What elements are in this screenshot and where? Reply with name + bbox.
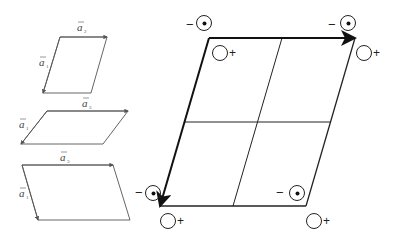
cell-1-top-label: a — [77, 21, 83, 33]
open-circle-icon — [357, 46, 372, 61]
cell-1-outline — [43, 37, 107, 93]
unit-cell-1: a 2 a 1 — [39, 21, 107, 93]
cell-2-vector-a1 — [21, 111, 47, 144]
open-circle-icon — [213, 46, 228, 61]
cell-3-left-label: a — [19, 187, 25, 199]
minus-sign: − — [276, 185, 284, 200]
dot-icon — [347, 22, 351, 26]
cell-2-outline — [21, 111, 128, 144]
minus-sign: − — [328, 17, 336, 32]
unit-cell-2: a 3 a 1 — [19, 97, 128, 144]
plus-sign: + — [323, 214, 330, 228]
cell-1-left-sub: 1 — [46, 64, 49, 69]
dot-icon — [296, 192, 300, 196]
plus-sign: + — [373, 46, 380, 60]
dot-icon — [203, 22, 207, 26]
unit-cell-3: a 3 a 1 — [19, 151, 130, 220]
open-circle-icon — [161, 214, 176, 229]
cell-3-top-sub: 3 — [67, 159, 70, 164]
open-circle-icon — [307, 214, 322, 229]
cell-3-outline — [22, 165, 130, 220]
lattice-diagram: a 2 a 1 a 3 a 1 a 3 a 1 — [0, 0, 401, 243]
cell-1-top-sub: 2 — [84, 29, 87, 34]
corner-marker-bottom-left: − + — [135, 185, 184, 229]
cell-3-top-label: a — [60, 151, 66, 163]
cell-2-left-label: a — [19, 118, 25, 130]
supercell-2x2 — [160, 38, 355, 206]
dot-icon — [152, 192, 156, 196]
plus-sign: + — [177, 214, 184, 228]
cell-2-left-sub: 1 — [26, 126, 29, 131]
minus-sign: − — [186, 17, 194, 32]
cell-2-top-sub: 3 — [89, 105, 92, 110]
cell-2-top-label: a — [82, 97, 88, 109]
plus-sign: + — [229, 46, 236, 60]
cell-3-left-sub: 1 — [26, 195, 29, 200]
cell-1-left-label: a — [39, 56, 45, 68]
corner-marker-bottom-right: − + — [276, 185, 330, 229]
minus-sign: − — [135, 185, 143, 200]
